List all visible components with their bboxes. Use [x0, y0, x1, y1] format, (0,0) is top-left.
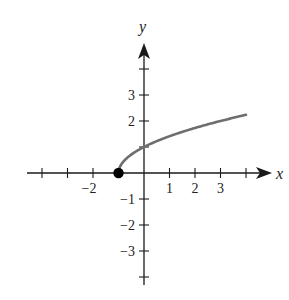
x-tick-label: −2 — [82, 181, 97, 196]
points — [113, 168, 123, 178]
y-tick-label: −3 — [120, 244, 135, 259]
y-tick-label: 2 — [128, 114, 135, 129]
x-axis-label: x — [275, 165, 283, 182]
y-tick-label: 3 — [128, 88, 135, 103]
x-tick-label: 1 — [166, 181, 173, 196]
closed-endpoint — [113, 168, 123, 178]
y-tick-label: −1 — [120, 192, 135, 207]
sqrt-curve — [119, 115, 247, 173]
function-graph: −212332−1−2−3 x y — [0, 0, 289, 300]
y-tick-label: −2 — [120, 218, 135, 233]
x-tick-label: 3 — [217, 181, 224, 196]
x-tick-label: 2 — [192, 181, 199, 196]
y-axis-label: y — [137, 18, 147, 36]
axes — [27, 43, 272, 285]
